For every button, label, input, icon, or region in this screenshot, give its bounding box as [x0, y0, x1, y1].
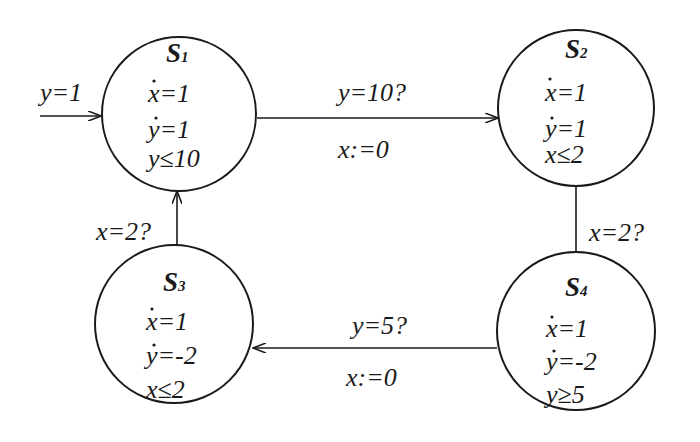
- state-s4-invariant: y≥5: [543, 380, 585, 409]
- state-s3-flow-x: x=1: [145, 307, 188, 336]
- state-s1-flow-y: y=1: [145, 115, 190, 144]
- state-s2: S2 x=1 y=1 x≤2: [498, 30, 654, 186]
- state-s3-invariant: x≤2: [145, 375, 185, 404]
- state-s4-flow-x: x=1: [545, 314, 588, 343]
- state-s3: S3 x=1 y=-2 x≤2: [95, 245, 253, 404]
- state-s4-flow-y: y=-2: [543, 347, 597, 376]
- state-s1-flow-x: x=1: [147, 79, 190, 108]
- state-s3-flow-y: y=-2: [143, 341, 197, 370]
- guard-s2-s4: x=2?: [588, 218, 644, 247]
- reset-s1-s2: x:=0: [337, 135, 389, 164]
- state-s4: S4 x=1 y=-2 y≥5: [497, 252, 655, 410]
- reset-s4-s3: x:=0: [345, 363, 397, 392]
- state-s1: S1 x=1 y=1 y≤10: [102, 37, 256, 191]
- state-s2-flow-x: x=1: [544, 78, 587, 107]
- initial-transition: y=1: [37, 78, 101, 116]
- guard-s3-s1: x=2?: [95, 217, 151, 246]
- transition-s1-s2: y=10? x:=0: [257, 78, 498, 164]
- hybrid-automaton-diagram: y=1 y=10? x:=0 x=2? y=5? x:=0 x=2? S1: [0, 0, 700, 442]
- state-s1-invariant: y≤10: [145, 144, 200, 173]
- initial-label: y=1: [37, 78, 82, 107]
- state-s2-flow-y: y=1: [542, 114, 587, 143]
- guard-s4-s3: y=5?: [349, 311, 407, 340]
- diagram-canvas: y=1 y=10? x:=0 x=2? y=5? x:=0 x=2? S1: [0, 0, 700, 442]
- transition-s4-s3: y=5? x:=0: [253, 311, 497, 392]
- state-s2-invariant: x≤2: [544, 140, 584, 169]
- guard-s1-s2: y=10?: [335, 78, 406, 107]
